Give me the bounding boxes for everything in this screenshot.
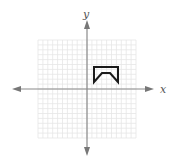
x-axis-label: x: [160, 83, 167, 96]
coordinate-plane-figure: x y: [0, 0, 176, 162]
axes: x y: [12, 8, 167, 156]
y-axis-label: y: [82, 8, 90, 21]
y-axis-up-arrow-icon: [84, 20, 90, 29]
y-axis-down-arrow-icon: [84, 147, 90, 156]
x-axis-left-arrow-icon: [12, 86, 21, 92]
x-axis-right-arrow-icon: [145, 86, 154, 92]
